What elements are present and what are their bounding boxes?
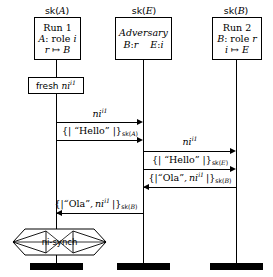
run-box-b-line-2: B: role r	[217, 33, 257, 44]
fresh-event-box: fresh nii1	[28, 77, 84, 94]
key-label-e: sk(E)	[113, 5, 175, 16]
claim-label: ni-synch	[12, 237, 107, 247]
run-box-a-line-3: r ↦ B	[45, 44, 71, 55]
msc-diagram: sk(A) Run 1 A: role i r ↦ B fresh nii1 s…	[0, 0, 273, 277]
msg-5-label: {|“Ola”, nii1 |}sk(B)	[140, 172, 240, 183]
lifeline-a-seg-1	[56, 60, 57, 77]
terminator-bar-b	[210, 263, 263, 270]
msg-3-label: nii1	[143, 136, 237, 147]
key-label-b: sk(B)	[205, 5, 267, 16]
claim-ni-synch: ni-synch	[12, 228, 107, 256]
msg-6-label: {|“Ola”, nii1 |}sk(B)	[46, 198, 146, 209]
msg-4-line	[143, 169, 230, 170]
key-label-a: sk(A)	[26, 5, 88, 16]
msg-5-line	[143, 187, 236, 188]
lifeline-a-seg-3	[56, 255, 57, 263]
run-box-a-line-2: A: role i	[38, 33, 76, 44]
msg-3-line	[143, 151, 230, 152]
run-box-e-line-1: Adversary	[119, 27, 168, 38]
run-box-a-line-1: Run 1	[43, 22, 71, 33]
terminator-bar-e	[117, 263, 170, 270]
msg-1-label: nii1	[56, 108, 144, 119]
run-box-b-line-1: Run 2	[223, 22, 251, 33]
fresh-event-label: fresh nii1	[36, 81, 76, 91]
msg-4-arrowhead	[230, 166, 236, 172]
msg-2-line	[56, 140, 138, 141]
msg-5-arrowhead	[143, 184, 149, 190]
run-box-e-line-2: B:r E:i	[123, 39, 163, 50]
terminator-bar-a	[30, 263, 83, 270]
run-box-a: Run 1 A: role i r ↦ B	[34, 17, 81, 60]
msg-3-arrowhead	[230, 148, 236, 154]
run-box-b: Run 2 B: role r i ↦ E	[212, 17, 262, 60]
msg-2-label: {| “Hello” |}sk(A)	[56, 125, 144, 136]
msg-4-label: {| “Hello” |}sk(E)	[143, 154, 237, 165]
msg-1-arrowhead	[137, 119, 143, 125]
msg-6-arrowhead	[56, 210, 62, 216]
run-box-b-line-3: i ↦ E	[225, 44, 249, 55]
run-box-e: Adversary B:r E:i	[115, 17, 172, 60]
msg-1-line	[56, 122, 138, 123]
msg-6-line	[56, 213, 143, 214]
